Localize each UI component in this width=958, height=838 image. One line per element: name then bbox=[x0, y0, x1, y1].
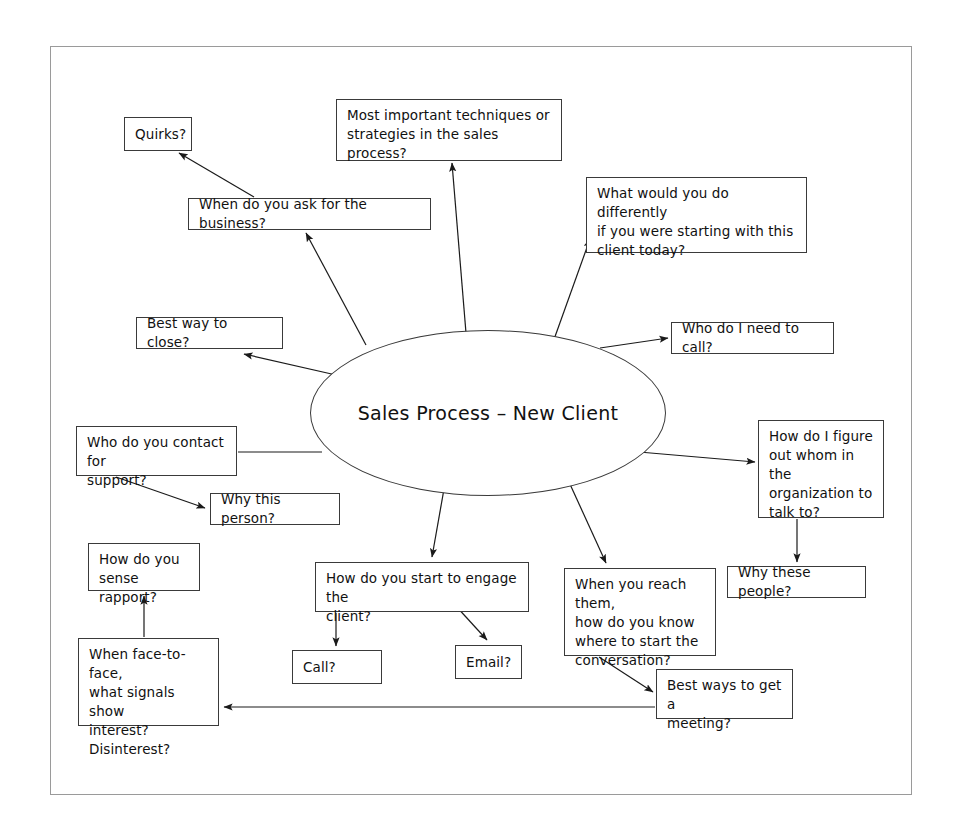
node-when-ask-for-business[interactable]: When do you ask for the business? bbox=[188, 198, 431, 230]
node-best-ways-to-get-a-meeting[interactable]: Best ways to get a meeting? bbox=[656, 669, 793, 719]
center-node-sales-process[interactable]: Sales Process – New Client bbox=[310, 330, 666, 496]
node-how-do-i-figure-out-whom[interactable]: How do I figure out whom in the organiza… bbox=[758, 420, 884, 518]
node-who-do-you-contact-for-support[interactable]: Who do you contact for support? bbox=[76, 426, 237, 476]
node-why-these-people[interactable]: Why these people? bbox=[727, 566, 866, 598]
node-quirks[interactable]: Quirks? bbox=[124, 117, 192, 151]
node-email[interactable]: Email? bbox=[455, 645, 522, 679]
node-call[interactable]: Call? bbox=[292, 650, 382, 684]
node-best-way-to-close[interactable]: Best way to close? bbox=[136, 317, 283, 349]
node-when-you-reach-them[interactable]: When you reach them, how do you know whe… bbox=[564, 568, 716, 656]
node-most-important-techniques[interactable]: Most important techniques or strategies … bbox=[336, 99, 562, 161]
node-how-do-you-start-to-engage[interactable]: How do you start to engage the client? bbox=[315, 562, 529, 612]
node-who-do-i-need-to-call[interactable]: Who do I need to call? bbox=[671, 322, 834, 354]
diagram-canvas: Quirks?Most important techniques or stra… bbox=[0, 0, 958, 838]
node-what-would-you-do-differently[interactable]: What would you do differently if you wer… bbox=[586, 177, 807, 253]
node-why-this-person[interactable]: Why this person? bbox=[210, 493, 340, 525]
node-how-do-you-sense-rapport[interactable]: How do you sense rapport? bbox=[88, 543, 200, 591]
node-when-face-to-face[interactable]: When face-to-face, what signals show int… bbox=[78, 638, 219, 726]
